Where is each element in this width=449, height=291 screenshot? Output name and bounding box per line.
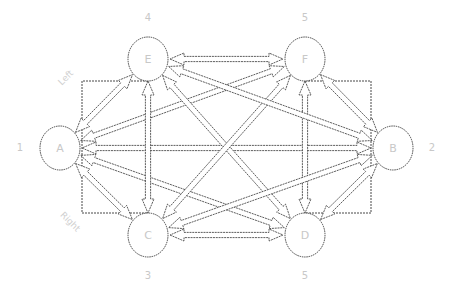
left-side-label: Left <box>56 68 75 87</box>
node-number-label: 1 <box>17 142 23 153</box>
node-e: E4 <box>128 12 168 81</box>
node-label: A <box>56 142 64 155</box>
edge-arrows <box>76 53 378 241</box>
node-label: E <box>145 53 152 66</box>
edge-c-b-arrow-icon <box>169 154 373 228</box>
node-number-label: 5 <box>302 12 308 23</box>
node-label: C <box>144 229 152 242</box>
node-c: C3 <box>128 213 168 281</box>
edge-e-b-arrow-icon <box>169 66 373 142</box>
node-f: F5 <box>285 12 325 81</box>
network-diagram: A1B2C3D5E4F5 Left Right <box>0 0 449 291</box>
node-label: F <box>302 53 308 66</box>
right-side-label: Right <box>58 210 82 234</box>
edge-a-d-arrow-icon <box>81 154 285 228</box>
edge-c-d-arrow-icon <box>170 229 283 241</box>
node-number-label: 3 <box>145 270 151 281</box>
node-a: A1 <box>17 126 80 170</box>
node-label: B <box>389 142 397 155</box>
node-number-label: 4 <box>145 12 151 23</box>
edge-e-f-arrow-icon <box>170 53 283 65</box>
node-d: D5 <box>285 213 325 281</box>
node-b: B2 <box>373 126 435 170</box>
edge-a-f-arrow-icon <box>81 66 285 142</box>
diagram-svg: A1B2C3D5E4F5 Left Right <box>0 0 449 291</box>
node-number-label: 2 <box>429 142 435 153</box>
node-label: D <box>301 229 309 242</box>
node-number-label: 5 <box>302 270 308 281</box>
